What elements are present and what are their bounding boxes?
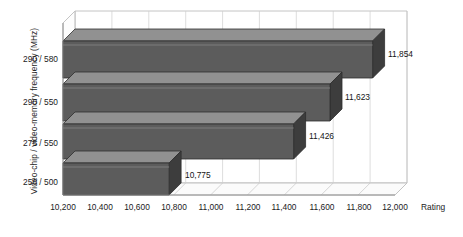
bar-2-top [63,112,306,124]
bar-value-label-1: 11,623 [345,92,370,102]
bar-1-top [63,72,342,84]
bar-3[interactable] [63,151,181,195]
chart-container: Video-chip / video-memory frequency (MHz… [0,0,463,237]
bar-value-label-3: 10,775 [185,170,211,180]
bar-3-front [63,163,169,195]
bar-3-top [63,151,181,163]
bar-0-top [63,29,385,41]
x-tick-label-9: 12,000 [370,202,420,212]
bar-0[interactable] [63,29,385,78]
bar-value-label-2: 11,426 [309,131,334,141]
x-axis-title: Rating [421,202,445,212]
bar-value-label-0: 11,854 [388,49,413,59]
